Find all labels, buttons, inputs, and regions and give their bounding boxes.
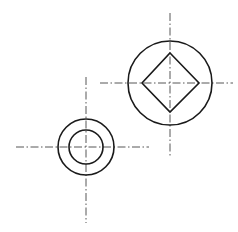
feature-large-circle-with-square xyxy=(100,13,233,158)
square-diamond xyxy=(142,53,199,112)
technical-drawing xyxy=(0,0,238,232)
feature-concentric-circles xyxy=(16,77,149,223)
